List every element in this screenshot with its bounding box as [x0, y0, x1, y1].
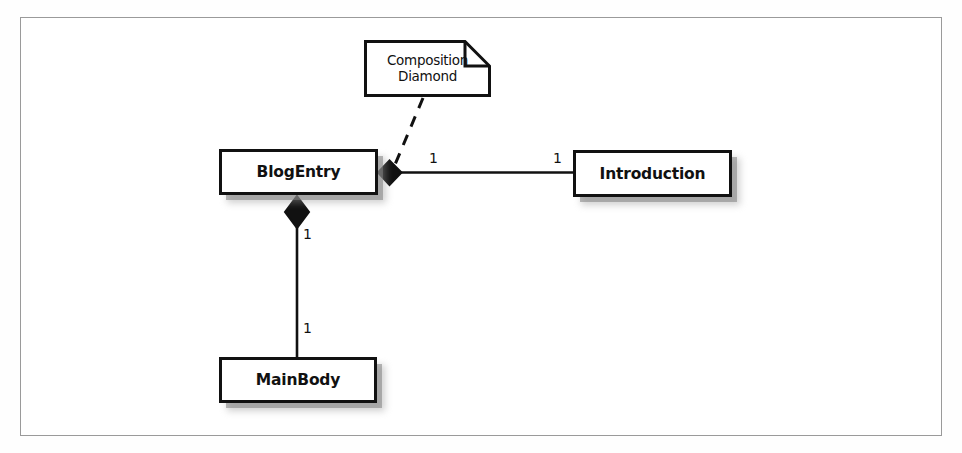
- class-name-mainbody: MainBody: [256, 371, 340, 389]
- class-name-blogentry: BlogEntry: [257, 163, 341, 181]
- multiplicity-blogentry-mainbody-source: 1: [303, 226, 312, 242]
- class-box-mainbody[interactable]: MainBody: [219, 357, 377, 403]
- note-anchor: [394, 98, 423, 167]
- multiplicity-blogentry-introduction-target: 1: [553, 150, 562, 166]
- class-box-introduction[interactable]: Introduction: [573, 150, 732, 197]
- note-outline: [366, 42, 490, 96]
- class-box-blogentry[interactable]: BlogEntry: [219, 149, 378, 195]
- figure-page: Composition Diamond BlogEntry Introducti…: [0, 0, 962, 453]
- composition-diamond-vertical: [285, 196, 309, 228]
- note-shape: [364, 40, 491, 97]
- multiplicity-blogentry-mainbody-target: 1: [303, 320, 312, 336]
- composition-diamond-note: Composition Diamond: [364, 40, 491, 97]
- note-anchor-dashed-line: [394, 98, 423, 167]
- class-name-introduction: Introduction: [600, 165, 706, 183]
- association-blogentry-introduction: [378, 161, 574, 186]
- multiplicity-blogentry-introduction-source: 1: [429, 150, 438, 166]
- composition-diamond-horizontal: [378, 161, 402, 186]
